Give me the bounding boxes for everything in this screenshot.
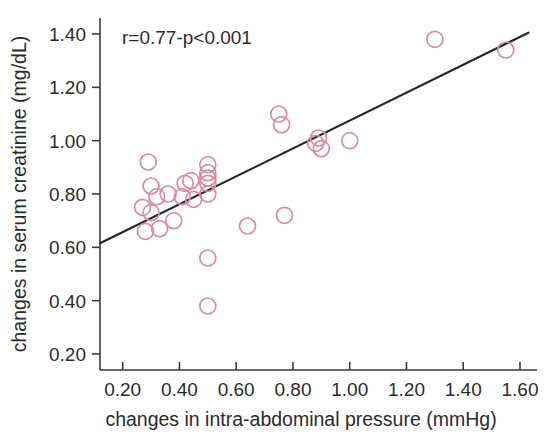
data-point <box>342 133 358 149</box>
data-points-group <box>135 31 514 314</box>
data-point <box>200 250 216 266</box>
x-tick-label: 0.80 <box>274 379 311 400</box>
x-axis-tick-labels: 0.200.400.600.801.001.201.401.60 <box>104 379 538 400</box>
x-tick-label: 0.60 <box>218 379 255 400</box>
correlation-annotation: r=0.77-p<0.001 <box>122 27 252 48</box>
y-tick-label: 0.60 <box>49 237 86 258</box>
x-axis-ticks <box>123 362 520 370</box>
data-point <box>166 213 182 229</box>
x-tick-label: 0.40 <box>161 379 198 400</box>
data-point <box>137 223 153 239</box>
y-axis-ticks <box>92 34 100 354</box>
y-axis-title: changes in serum creatinine (mg/dL) <box>8 36 30 353</box>
plot-canvas: 0.200.400.600.801.001.201.40 0.200.400.6… <box>0 0 548 437</box>
y-tick-label: 0.40 <box>49 291 86 312</box>
y-tick-label: 0.80 <box>49 184 86 205</box>
x-tick-label: 0.20 <box>104 379 141 400</box>
y-tick-label: 0.20 <box>49 344 86 365</box>
data-point <box>160 186 176 202</box>
data-point <box>276 207 292 223</box>
y-axis-tick-labels: 0.200.400.600.801.001.201.40 <box>49 24 86 365</box>
x-tick-label: 1.20 <box>388 379 425 400</box>
data-point <box>152 221 168 237</box>
data-point <box>274 117 290 133</box>
x-tick-label: 1.00 <box>331 379 368 400</box>
data-point <box>240 218 256 234</box>
data-point <box>183 173 199 189</box>
x-axis-title: changes in intra-abdominal pressure (mmH… <box>105 408 496 430</box>
y-tick-label: 1.20 <box>49 77 86 98</box>
data-point <box>200 298 216 314</box>
x-tick-label: 1.40 <box>445 379 482 400</box>
data-point <box>140 154 156 170</box>
scatter-plot-figure: 0.200.400.600.801.001.201.40 0.200.400.6… <box>0 0 548 437</box>
x-tick-label: 1.60 <box>501 379 538 400</box>
data-point <box>427 31 443 47</box>
regression-line <box>100 33 528 244</box>
y-tick-label: 1.40 <box>49 24 86 45</box>
y-tick-label: 1.00 <box>49 131 86 152</box>
data-point <box>271 106 287 122</box>
